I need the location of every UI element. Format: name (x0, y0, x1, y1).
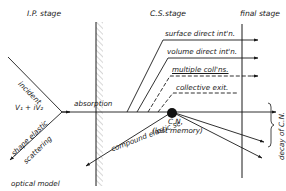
compound-nucleus-label: C.N. (168, 118, 183, 125)
final-stage-label: final stage (240, 10, 280, 18)
decay-label: decay of C.N. (278, 112, 285, 160)
absorption-label: absorption (74, 100, 112, 107)
reaction-mechanism-diagram (0, 0, 286, 191)
lost-memory-label: (lost memory) (152, 127, 203, 134)
volume-direct-label: volume direct int'n. (167, 48, 237, 55)
potential-label: V₁ + iV₂ (15, 104, 43, 111)
surface-direct-label: surface direct int'n. (165, 30, 235, 37)
cs-stage-label: C.S.stage (150, 10, 186, 18)
multiple-collisions-path (148, 76, 252, 112)
decay-arrow-2 (172, 112, 262, 158)
ip-stage-label: I.P. stage (27, 10, 61, 18)
collective-exit-label: collective exit. (176, 84, 228, 91)
multiple-collisions-label: multiple coll'ns. (172, 66, 229, 73)
decay-brace (268, 103, 274, 147)
optical-model-label: optical model (11, 180, 60, 187)
